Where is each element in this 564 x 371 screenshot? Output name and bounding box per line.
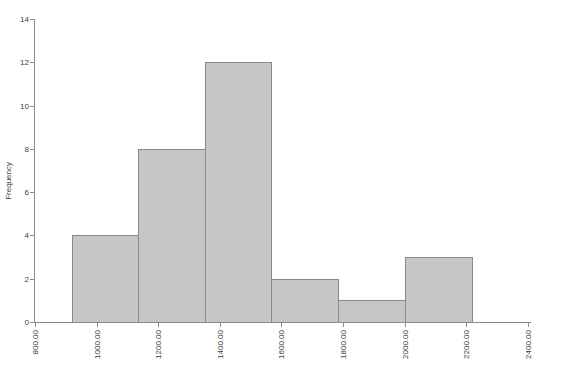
x-axis-tick [35, 323, 36, 327]
x-tick-label: 2000.00 [401, 330, 410, 359]
x-tick-label: 1600.00 [277, 330, 286, 359]
histogram-bar [271, 279, 339, 323]
x-tick-label: 1200.00 [154, 330, 163, 359]
histogram-chart: Frequency 02468101214800.001000.001200.0… [0, 0, 564, 371]
y-tick-label: 2 [7, 275, 29, 284]
x-tick-label: 1000.00 [93, 330, 102, 359]
x-tick-label: 800.00 [31, 330, 40, 354]
x-axis-tick [405, 323, 406, 327]
histogram-bar [138, 149, 206, 323]
histogram-bar [405, 257, 473, 323]
y-tick-label: 12 [7, 58, 29, 67]
x-axis-line [34, 322, 531, 323]
y-tick-label: 10 [7, 102, 29, 111]
x-tick-label: 1800.00 [339, 330, 348, 359]
y-axis-tick [30, 235, 34, 236]
y-axis-line [34, 19, 35, 323]
y-axis-tick [30, 62, 34, 63]
x-axis-tick [281, 323, 282, 327]
y-axis-tick [30, 279, 34, 280]
x-tick-label: 2200.00 [462, 330, 471, 359]
x-axis-tick [158, 323, 159, 327]
histogram-bar [205, 62, 272, 323]
x-axis-tick [97, 323, 98, 327]
y-tick-label: 4 [7, 231, 29, 240]
y-axis-tick [30, 149, 34, 150]
y-axis-tick [30, 19, 34, 20]
y-tick-label: 6 [7, 188, 29, 197]
y-tick-label: 0 [7, 318, 29, 327]
x-tick-label: 2400.00 [524, 330, 533, 359]
histogram-bar [338, 300, 406, 323]
x-axis-tick [466, 323, 467, 327]
histogram-bar [72, 235, 139, 323]
y-axis-tick [30, 106, 34, 107]
x-axis-tick [343, 323, 344, 327]
x-axis-tick [220, 323, 221, 327]
y-axis-tick [30, 192, 34, 193]
x-tick-label: 1400.00 [216, 330, 225, 359]
x-axis-tick [528, 323, 529, 327]
y-tick-label: 8 [7, 145, 29, 154]
y-tick-label: 14 [7, 15, 29, 24]
y-axis-tick [30, 322, 34, 323]
